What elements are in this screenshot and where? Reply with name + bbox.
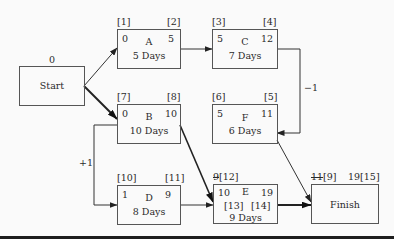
c-ef: 12 <box>261 33 273 44</box>
b-tl-ref: [7] <box>117 91 130 102</box>
e-mid-left-ref: [13] <box>224 200 244 211</box>
link-c-f <box>277 49 300 133</box>
link-f-finish <box>277 140 311 202</box>
e-tl-label: 9[12] <box>213 171 239 182</box>
node-d: 1 D 9 8 Days <box>117 185 181 225</box>
a-duration: 5 Days <box>118 50 180 61</box>
bottom-border-bar <box>0 236 394 239</box>
c-tl-ref: [3] <box>212 16 225 27</box>
finish-tl-label: 11[9] <box>311 171 337 182</box>
finish-name: Finish <box>312 199 378 210</box>
node-a: 0 A 5 5 Days <box>117 29 181 69</box>
d-tr-ref: [11] <box>165 172 185 183</box>
f-tr-ref: [5] <box>264 91 277 102</box>
a-tl-ref: [1] <box>117 16 130 27</box>
link-start-a <box>84 48 117 86</box>
f-tl-ref: [6] <box>212 91 225 102</box>
finish-tr-label: 19[15] <box>348 171 380 182</box>
link-start-b <box>84 86 117 119</box>
start-name: Start <box>20 80 84 91</box>
node-start: Start <box>19 66 85 106</box>
d-duration: 8 Days <box>118 206 180 217</box>
finish-tr-value: 19 <box>348 171 360 182</box>
b-ef: 10 <box>165 108 177 119</box>
start-top-label: 0 <box>49 54 55 65</box>
finish-tl-ref: [9] <box>323 171 336 182</box>
d-ef: 9 <box>165 189 171 200</box>
node-e: 10 E 19 [13] [14] 9 Days <box>213 184 278 224</box>
finish-tl-struck: 11 <box>311 171 323 182</box>
node-finish: Finish <box>311 184 379 224</box>
lag-c-f: −1 <box>304 82 318 93</box>
node-b: 0 B 10 10 Days <box>117 104 181 144</box>
f-duration: 6 Days <box>213 125 277 136</box>
e-ef: 19 <box>261 187 273 198</box>
b-duration: 10 Days <box>118 125 180 136</box>
lag-b-d: +1 <box>79 157 93 168</box>
a-tr-ref: [2] <box>167 16 180 27</box>
node-c: 5 C 12 7 Days <box>212 29 278 69</box>
finish-tr-ref: [15] <box>360 171 380 182</box>
a-ef: 5 <box>168 33 174 44</box>
e-duration: 9 Days <box>214 212 277 223</box>
c-tr-ref: [4] <box>263 16 276 27</box>
c-duration: 7 Days <box>213 50 277 61</box>
link-b-d <box>94 125 117 205</box>
e-tl-ref: [12] <box>219 171 239 182</box>
node-f: 5 F 11 6 Days <box>212 104 278 144</box>
b-tr-ref: [8] <box>167 91 180 102</box>
f-ef: 11 <box>261 108 273 119</box>
d-tl-ref: [10] <box>117 172 137 183</box>
link-b-e <box>180 125 213 202</box>
e-mid-right-ref: [14] <box>251 200 271 211</box>
